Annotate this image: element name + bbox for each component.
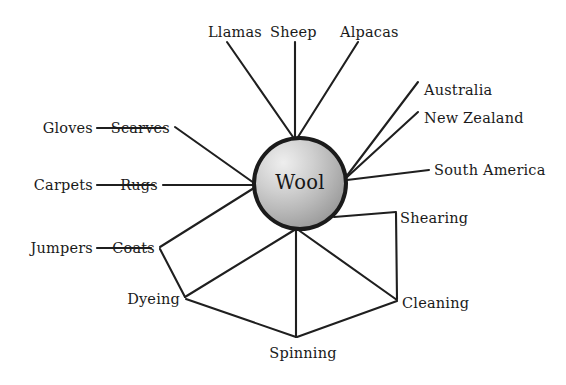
edge-hub-to-llamas [227, 42, 293, 137]
edge-hub-to-shearing [334, 212, 396, 217]
node-label-south-america[interactable]: South America [434, 163, 546, 178]
node-label-llamas[interactable]: Llamas [208, 25, 262, 40]
edge-hub-to-dyeing [185, 229, 296, 297]
edge-cleaning-to-shearing [396, 213, 397, 299]
node-label-new-zealand[interactable]: New Zealand [424, 111, 524, 126]
edge-hub-to-coats [160, 188, 254, 247]
node-label-carpets[interactable]: Carpets [34, 178, 93, 193]
edge-hub-to-australia [346, 82, 418, 177]
edge-dyeing-to-spinning [186, 299, 296, 337]
node-label-cleaning[interactable]: Cleaning [402, 296, 469, 311]
node-label-scarves[interactable]: Scarves [111, 121, 170, 136]
edge-hub-to-south-america [347, 170, 429, 180]
wool-spider-diagram: Wool LlamasSheepAlpacasAustraliaNew Zeal… [0, 0, 566, 385]
node-label-jumpers[interactable]: Jumpers [30, 241, 93, 256]
node-label-rugs[interactable]: Rugs [120, 178, 158, 193]
node-label-alpacas[interactable]: Alpacas [340, 25, 399, 40]
edge-hub-to-scarves [175, 127, 254, 183]
node-label-australia[interactable]: Australia [424, 83, 492, 98]
node-label-gloves[interactable]: Gloves [43, 121, 93, 136]
central-node-wool[interactable]: Wool [252, 136, 348, 231]
edge-hub-to-alpacas [298, 42, 358, 137]
node-label-spinning[interactable]: Spinning [269, 346, 336, 361]
node-label-shearing[interactable]: Shearing [400, 211, 468, 226]
edge-hub-to-cleaning [297, 229, 397, 300]
edge-hub-to-new-zealand [346, 112, 418, 178]
node-label-coats[interactable]: Coats [112, 241, 155, 256]
node-label-dyeing[interactable]: Dyeing [127, 292, 180, 307]
central-node-label: Wool [275, 171, 325, 194]
node-label-sheep[interactable]: Sheep [270, 25, 317, 40]
edge-spinning-to-cleaning [297, 301, 397, 337]
